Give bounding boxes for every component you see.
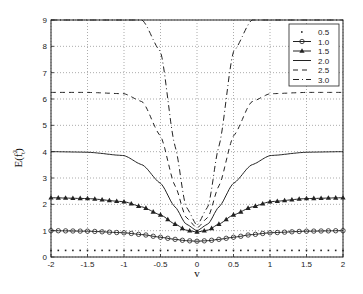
y-tick-label: 0 — [43, 253, 48, 262]
legend-label: 3.0 — [318, 76, 330, 85]
x-tick-label: 2 — [341, 260, 346, 269]
x-tick-label: 1.5 — [301, 260, 313, 269]
svg-text:E(f2t): E(f2t) — [11, 148, 27, 168]
y-tick-label: 5 — [43, 121, 48, 130]
y-tick-label: 2 — [43, 200, 48, 209]
legend-label: 0.5 — [318, 28, 330, 37]
x-tick-label: 0.5 — [228, 260, 240, 269]
y-tick-label: 4 — [43, 148, 48, 157]
y-tick-label: 3 — [43, 174, 48, 183]
y-tick-label: 8 — [43, 42, 48, 51]
curve-1.5 — [51, 198, 343, 232]
legend-label: 2.0 — [318, 57, 330, 66]
legend-label: 2.5 — [318, 66, 330, 75]
y-tick-label: 1 — [43, 227, 48, 236]
x-axis-label: v — [194, 267, 200, 279]
chart: -2-1.5-1-0.500.511.52 0123456789 v E(f2t… — [0, 0, 363, 294]
x-tick-label: -1.5 — [81, 260, 95, 269]
x-tick-label: -1 — [120, 260, 128, 269]
y-tick-label: 6 — [43, 95, 48, 104]
y-axis-label: E(f2t) — [11, 148, 27, 168]
y-tick-label: 9 — [43, 16, 48, 25]
x-tick-label: -0.5 — [154, 260, 168, 269]
legend: 0.51.01.52.02.53.0 — [289, 24, 339, 86]
curve-2.5 — [51, 92, 343, 228]
legend-label: 1.0 — [318, 38, 330, 47]
y-tick-label: 7 — [43, 69, 48, 78]
legend-label: 1.5 — [318, 47, 330, 56]
x-tick-label: -2 — [47, 260, 55, 269]
y-tick-labels: 0123456789 — [43, 16, 48, 262]
x-tick-label: 1 — [268, 260, 273, 269]
